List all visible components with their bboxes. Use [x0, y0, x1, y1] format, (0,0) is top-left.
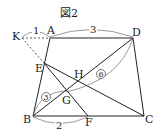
measure-AD: 3 [90, 24, 96, 35]
label-A: A [46, 24, 56, 37]
label-F: F [85, 116, 93, 129]
label-C: C [145, 113, 153, 126]
geometry-diagram: 図2 1 3 2 3 6 K A D E H G B F C [0, 0, 158, 134]
measure-KA: 1 [33, 25, 39, 36]
dashed-line-KE [22, 38, 44, 63]
measure-GD: 6 [99, 70, 104, 79]
segment-EC [44, 63, 144, 116]
measure-BF: 2 [56, 120, 62, 131]
measure-BG: 3 [44, 93, 49, 102]
label-D: D [132, 26, 141, 39]
label-K: K [12, 30, 21, 43]
figure-title: 図2 [60, 7, 78, 20]
label-G: G [62, 94, 71, 107]
trapezoid-ABCD [33, 38, 144, 116]
label-E: E [35, 62, 43, 75]
label-B: B [23, 113, 31, 126]
label-H: H [74, 68, 84, 81]
